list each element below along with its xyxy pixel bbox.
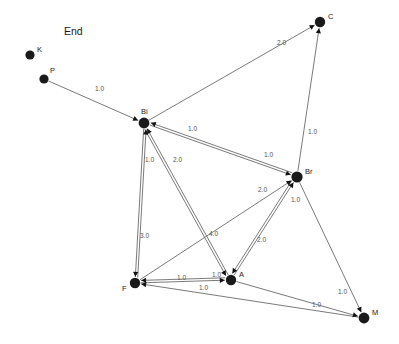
arrow-heads-group: [133, 25, 362, 317]
graph-edge-Bi-to-C: [149, 25, 315, 120]
node-dots-group: [25, 17, 369, 324]
edge-weight-label-A-M: 1.0: [312, 301, 321, 308]
graph-node-M[interactable]: [359, 313, 370, 324]
edge-weight-label-P-Bi: 1.0: [95, 85, 104, 92]
graph-edge-Bi-to-A: [145, 129, 226, 275]
graph-edge-Br-to-C: [298, 28, 319, 171]
graph-node-P[interactable]: [39, 74, 48, 83]
arrowhead-F-to-A: [220, 278, 225, 283]
edge-weight-label-F-A: 1.0: [212, 271, 221, 278]
node-label-Bi: Bi: [141, 107, 148, 116]
graph-edge-A-to-Br: [234, 183, 293, 276]
node-label-K: K: [37, 45, 42, 54]
node-label-P: P: [50, 66, 55, 75]
edge-weight-label-F-Br: 2.0: [258, 186, 267, 193]
graph-edge-A-to-Bi: [147, 129, 228, 275]
graph-node-K[interactable]: [25, 50, 34, 59]
edge-weight-label-Bi-C: 2.0: [277, 39, 286, 46]
edge-weight-label-A-F: 1.0: [177, 274, 186, 281]
graph-node-F[interactable]: [130, 278, 140, 288]
edge-weight-label-M-F: 1.0: [199, 284, 208, 291]
edge-weight-label-Br-M: 1.0: [338, 288, 347, 295]
arrowhead-Br-to-C: [316, 28, 321, 33]
graph-node-A[interactable]: [226, 275, 236, 285]
edge-weight-label-A-Br: 1.0: [291, 196, 300, 203]
edge-weight-label-Bi-A: 4.0: [209, 230, 218, 237]
graph-edge-Br-to-M: [300, 183, 362, 313]
edge-lines-group: [49, 25, 362, 317]
node-label-F: F: [122, 284, 127, 293]
node-label-Br: Br: [305, 167, 313, 176]
graph-edge-F-to-Bi: [138, 130, 146, 278]
graph-edge-P-to-Bi: [49, 81, 138, 120]
edge-weight-label-Bi-F: 3.0: [140, 232, 149, 239]
graph-edge-Bi-to-F: [135, 129, 143, 277]
graph-edge-Bi-to-Br: [150, 125, 291, 175]
edge-weight-label-A-Bi: 2.0: [173, 156, 182, 163]
graph-edge-Br-to-A: [232, 181, 291, 274]
node-label-C: C: [328, 12, 334, 21]
graph-canvas: 1.02.01.01.01.03.01.02.02.01.02.04.01.01…: [0, 0, 399, 344]
graph-title: End: [64, 25, 83, 37]
edge-weight-label-Br-C: 1.0: [308, 128, 317, 135]
node-labels-group: KPCBiBrFAM: [37, 12, 378, 317]
graph-node-Br[interactable]: [291, 171, 302, 182]
graph-node-C[interactable]: [315, 17, 325, 27]
graph-edge-Br-to-Bi: [151, 123, 292, 173]
edge-weight-label-Bi-Br: 1.0: [264, 151, 273, 158]
graph-edge-M-to-F: [141, 284, 358, 317]
node-label-A: A: [239, 270, 244, 279]
edge-weight-label-Br-A: 2.0: [257, 236, 266, 243]
graph-svg: 1.02.01.01.01.03.01.02.02.01.02.04.01.01…: [0, 0, 399, 344]
edge-weight-label-F-Bi: 1.0: [145, 156, 154, 163]
node-label-M: M: [372, 308, 378, 317]
edge-weight-label-Br-Bi: 1.0: [188, 125, 197, 132]
graph-node-Bi[interactable]: [139, 118, 150, 129]
graph-edge-A-to-M: [236, 282, 357, 317]
arrowhead-Br-to-A: [232, 268, 237, 274]
